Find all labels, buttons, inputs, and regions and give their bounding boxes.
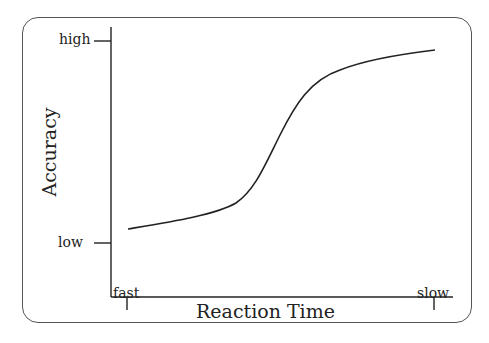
y-tick-label-low: low	[58, 234, 83, 250]
x-axis-title: Reaction Time	[196, 300, 335, 322]
chart-canvas	[0, 0, 489, 343]
x-tick-label-fast: fast	[113, 285, 139, 301]
x-tick-label-slow: slow	[417, 285, 449, 301]
sigmoid-curve	[128, 50, 435, 229]
y-axis-title: Accuracy	[38, 107, 60, 196]
y-tick-label-high: high	[59, 31, 90, 47]
